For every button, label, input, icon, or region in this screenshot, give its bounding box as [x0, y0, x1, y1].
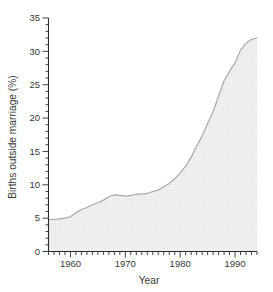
x-tick-label: 1970 — [115, 258, 136, 269]
y-tick-label: 35 — [29, 12, 40, 23]
y-tick-label: 15 — [29, 146, 40, 157]
y-tick-label: 30 — [29, 46, 40, 57]
births-outside-marriage-chart: 051015202530351960197019801990 Births ou… — [0, 0, 273, 292]
area-fill — [49, 38, 258, 251]
x-tick-label: 1990 — [224, 258, 245, 269]
y-tick-label: 5 — [35, 212, 40, 223]
y-tick-label: 0 — [35, 246, 40, 257]
x-tick-label: 1980 — [170, 258, 191, 269]
area-series — [49, 38, 258, 251]
y-axis-title: Births outside marriage (%) — [7, 75, 18, 198]
x-tick-label: 1960 — [60, 258, 81, 269]
y-tick-label: 20 — [29, 112, 40, 123]
x-axis-title: Year — [139, 275, 160, 286]
y-tick-label: 10 — [29, 179, 40, 190]
chart-page: 051015202530351960197019801990 Births ou… — [0, 0, 273, 292]
y-tick-label: 25 — [29, 79, 40, 90]
